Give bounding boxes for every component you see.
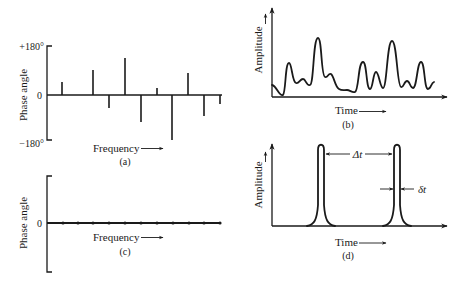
panel-d-delta-t-label: Δt — [352, 148, 363, 160]
panel-a-y-tick-top: +180° — [19, 41, 44, 52]
panel-c-caption: (c) — [119, 246, 130, 258]
panel-d-pulse-train: Δt δt Amplitude Time (d) — [252, 144, 447, 262]
figure: +180° 0 −180° Phase angle Frequency (a) … — [0, 0, 458, 284]
panel-d-pulse-2 — [383, 145, 411, 226]
panel-a-x-label: Frequency — [93, 142, 140, 154]
panel-d-y-label: Amplitude — [252, 161, 264, 208]
panel-c-y-axis — [47, 176, 52, 272]
panel-a-phase-spectrum: +180° 0 −180° Phase angle Frequency (a) — [17, 41, 222, 168]
panel-d-x-label: Time — [335, 236, 358, 248]
panel-d-caption: (d) — [342, 250, 354, 262]
panel-a-y-tick-bottom: −180° — [19, 138, 44, 149]
panel-b-signal-curve — [272, 38, 434, 95]
panel-a-y-axis — [47, 46, 52, 140]
panel-a-y-label: Phase angle — [17, 69, 29, 121]
panel-b-y-label: Amplitude — [252, 26, 264, 73]
panel-c-x-label: Frequency — [93, 231, 140, 243]
panel-b-time-signal: Amplitude Time (b) — [252, 8, 447, 131]
panel-b-caption: (b) — [342, 119, 354, 131]
panel-a-y-tick-zero: 0 — [37, 90, 42, 101]
panel-c-y-tick-zero: 0 — [37, 218, 42, 229]
panel-d-small-delta-t-label: δt — [418, 183, 427, 195]
panel-b-x-label: Time — [335, 104, 358, 116]
panel-a-caption: (a) — [119, 156, 130, 168]
panel-a-phase-stems — [62, 58, 220, 140]
panel-c-phase-spectrum: 0 Phase angle Frequency (c) — [17, 176, 222, 272]
panel-c-y-label: Phase angle — [17, 197, 29, 249]
panel-d-pulse-1 — [307, 145, 335, 226]
